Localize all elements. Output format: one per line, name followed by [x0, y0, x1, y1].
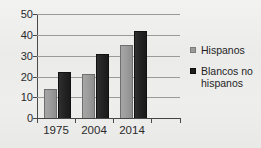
legend-item-hispanos[interactable]: Hispanos	[190, 44, 260, 56]
y-tick-label-0: 0	[9, 113, 33, 124]
y-tick-label-30: 30	[9, 51, 33, 62]
x-tick-mark-4	[180, 118, 181, 123]
gridline-baseline-0	[37, 118, 180, 119]
legend-swatch-blancos-no-hispanos-icon	[190, 68, 196, 74]
x-tick-label-2014: 2014	[110, 124, 154, 137]
x-tick-mark-2	[113, 118, 114, 123]
bar-chart: 50 40 30 20 10 0	[0, 0, 261, 148]
x-tick-mark-0	[37, 118, 38, 123]
plot-area	[37, 14, 147, 118]
bar-group-1975	[44, 14, 76, 118]
y-tick-label-40: 40	[9, 30, 33, 41]
legend-label-hispanos: Hispanos	[201, 44, 260, 56]
y-tick-label-20: 20	[9, 72, 33, 83]
bar-blancos-no-hispanos-1975[interactable]	[58, 72, 71, 118]
bar-hispanos-1975[interactable]	[44, 89, 57, 118]
bar-group-2004	[82, 14, 114, 118]
y-tick-label-10: 10	[9, 92, 33, 103]
bar-blancos-no-hispanos-2004[interactable]	[96, 54, 109, 119]
legend-item-blancos-no-hispanos[interactable]: Blancos no hispanos	[190, 65, 260, 89]
legend-label-blancos-no-hispanos: Blancos no hispanos	[201, 65, 260, 89]
bar-group-2014	[120, 14, 152, 118]
bar-blancos-no-hispanos-2014[interactable]	[134, 31, 147, 118]
chart-legend: Hispanos Blancos no hispanos	[190, 44, 260, 98]
bar-hispanos-2004[interactable]	[82, 74, 95, 118]
bar-hispanos-2014[interactable]	[120, 45, 133, 118]
y-tick-label-50: 50	[9, 9, 33, 20]
legend-swatch-hispanos-icon	[190, 47, 196, 53]
x-tick-mark-3	[151, 118, 152, 123]
y-axis-labels: 50 40 30 20 10 0	[5, 0, 33, 148]
x-tick-mark-1	[75, 118, 76, 123]
